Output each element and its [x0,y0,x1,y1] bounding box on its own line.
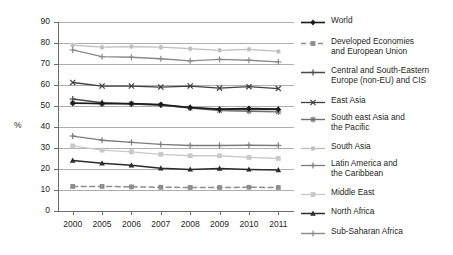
data-point-plus [158,56,164,62]
x-tick-mark [249,211,250,215]
x-tick-mark [278,211,279,215]
data-point-plus [246,57,252,63]
series-latin-america-and-the-caribbean [70,133,282,148]
y-tick-label: 10 [0,184,50,194]
y-tick-label: 40 [0,121,50,131]
data-point-circle [276,49,281,54]
data-point-plus [187,58,193,64]
x-tick-mark [131,211,132,215]
legend-swatch-x-icon [300,97,326,108]
legend-label: Developed Economies and European Union [331,37,414,56]
data-point-square [158,152,163,157]
legend-item[interactable]: East Asia [300,96,366,108]
x-tick-label: 2011 [258,219,298,229]
legend-swatch-square-icon [300,38,326,49]
legend-item[interactable]: Developed Economies and European Union [300,37,414,56]
legend-swatch-star-icon [300,114,326,125]
chart-root: % 9080706050403020100 200020052006200720… [0,0,453,255]
series-layer [58,22,293,211]
data-point-square [276,156,281,161]
data-point-square [311,192,316,197]
legend-swatch-triangle-icon [300,208,326,219]
data-point-plus [128,139,134,145]
x-axis-line [58,211,294,212]
series-south-asia [70,43,281,54]
data-point-plus [158,141,164,147]
x-tick-mark [161,211,162,215]
y-tick-label: 90 [0,16,50,26]
legend-swatch-plus-icon [300,228,326,239]
x-tick-mark [102,211,103,215]
data-point-circle [188,46,193,51]
data-point-circle [311,146,316,151]
legend-item[interactable]: South Asia [300,142,371,154]
legend-item[interactable]: Sub-Saharan Africa [300,227,403,239]
data-point-square [217,185,222,190]
data-point-plus [310,163,316,169]
data-point-circle [246,47,251,52]
legend-swatch-square-icon [300,189,326,200]
legend-label: Latin America and the Caribbean [331,159,397,178]
plot-area [58,22,293,211]
y-tick-label: 80 [0,37,50,47]
legend-label: World [331,16,353,26]
y-tick-label: 30 [0,142,50,152]
data-point-star [310,117,316,123]
y-tick-label: 0 [0,205,50,215]
data-point-plus [70,47,76,53]
series-east-asia [70,80,281,91]
x-tick-mark [220,211,221,215]
data-point-square [100,148,105,153]
data-point-square [217,153,222,158]
legend-item[interactable]: Central and South-Eastern Europe (non-EU… [300,66,429,85]
legend-swatch-circle-icon [300,143,326,154]
data-point-square [129,184,134,189]
legend-swatch-plus-icon [300,67,326,78]
x-tick-mark [190,211,191,215]
legend-label: Middle East [331,188,374,198]
legend-label: South east Asia and the Pacific [331,113,405,132]
legend-item[interactable]: World [300,16,353,28]
y-tick-label: 20 [0,163,50,173]
data-point-plus [217,142,223,148]
data-point-square [158,185,163,190]
data-point-square [276,185,281,190]
x-tick-mark [73,211,74,215]
data-point-plus [246,142,252,148]
data-point-plus [70,133,76,139]
data-point-circle [217,48,222,53]
data-point-square [70,184,75,189]
legend-item[interactable]: South east Asia and the Pacific [300,113,405,132]
y-tick-label: 60 [0,79,50,89]
legend-swatch-plus-icon [300,160,326,171]
data-point-circle [70,43,75,48]
legend-item[interactable]: North Africa [300,207,374,219]
legend-item[interactable]: Latin America and the Caribbean [300,159,397,178]
data-point-plus [310,70,316,76]
data-point-square [247,185,252,190]
legend-label: Central and South-Eastern Europe (non-EU… [331,66,429,85]
data-point-circle [158,45,163,50]
data-point-circle [100,45,105,50]
data-point-square [311,41,316,46]
data-point-square [247,155,252,160]
legend-label: North Africa [331,207,374,217]
legend-label: South Asia [331,142,371,152]
data-point-plus [217,56,223,62]
y-tick-label: 50 [0,100,50,110]
data-point-plus [275,59,281,65]
legend-label: East Asia [331,96,366,106]
data-point-square [188,185,193,190]
data-point-square [188,153,193,158]
legend-item[interactable]: Middle East [300,188,374,200]
data-point-plus [99,137,105,143]
legend-swatch-diamond-icon [300,17,326,28]
legend-label: Sub-Saharan Africa [331,227,403,237]
series-developed-economies-and-european-union [70,184,280,190]
data-point-plus [310,231,316,237]
y-tick-label: 70 [0,58,50,68]
data-point-plus [187,142,193,148]
data-point-square [70,144,75,149]
data-point-plus [128,54,134,60]
data-point-square [100,184,105,189]
